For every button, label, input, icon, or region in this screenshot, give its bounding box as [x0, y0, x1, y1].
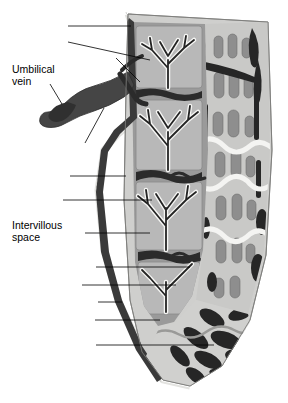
endometrium-layer — [196, 18, 280, 318]
label-group: Amnion Septum Umbilical arteries Umbilic… — [0, 0, 150, 403]
placenta-diagram: Amnion Septum Umbilical arteries Umbilic… — [0, 0, 288, 403]
